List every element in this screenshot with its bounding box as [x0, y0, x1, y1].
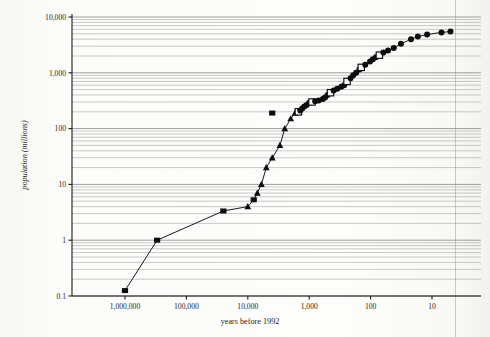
- data-point-circle: [398, 41, 404, 47]
- y-tick-label: 10,000: [45, 13, 66, 22]
- data-point-circle: [439, 29, 445, 35]
- data-point-circle: [408, 36, 414, 42]
- data-point-triangle: [281, 125, 288, 131]
- y-tick-label: 0.1: [57, 292, 67, 301]
- population-curve: [125, 32, 450, 291]
- data-point-triangle: [269, 154, 276, 160]
- x-tick-label: 1,000,000: [110, 302, 141, 311]
- x-axis-title: years before 1992: [221, 317, 280, 326]
- data-point-square: [154, 238, 160, 243]
- y-tick-label: 100: [55, 124, 67, 133]
- data-point-square: [220, 208, 226, 213]
- data-point-circle: [415, 34, 421, 40]
- y-tick-label: 1: [62, 236, 66, 245]
- data-point-circle: [447, 29, 453, 35]
- y-tick-labels: 10,0001,0001001010.1: [45, 13, 72, 301]
- gridlines: [72, 17, 481, 296]
- data-point-circle: [385, 48, 391, 54]
- data-markers: [122, 29, 454, 294]
- data-point-circle: [424, 32, 430, 38]
- x-tick-labels: 1,000,000100,00010,0001,00010010: [110, 296, 436, 311]
- y-axis-title: population (millions): [20, 120, 29, 191]
- data-point-triangle: [277, 142, 284, 148]
- data-point-triangle: [258, 181, 265, 187]
- y-tick-label: 10: [58, 180, 66, 189]
- data-point-triangle: [263, 164, 270, 170]
- population-log-log-chart: 10,0001,0001001010.11,000,000100,00010,0…: [0, 0, 490, 337]
- data-point-circle: [391, 45, 397, 51]
- data-point-triangle: [254, 189, 261, 195]
- data-point-square: [251, 197, 257, 202]
- chart-figure: 10,0001,0001001010.11,000,000100,00010,0…: [0, 0, 490, 337]
- x-tick-label: 10,000: [237, 302, 258, 311]
- data-point-square: [269, 111, 275, 116]
- x-tick-label: 10: [428, 302, 436, 311]
- x-tick-label: 100,000: [174, 302, 199, 311]
- y-tick-label: 1,000: [49, 69, 66, 78]
- data-point-square: [122, 288, 128, 293]
- x-tick-label: 1,000: [301, 302, 318, 311]
- x-tick-label: 100: [365, 302, 377, 311]
